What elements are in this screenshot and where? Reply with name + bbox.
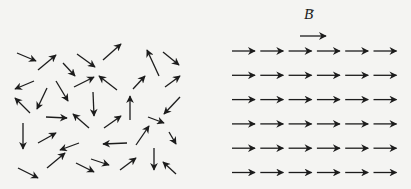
- vector-arrow-icon: →: [306, 4, 316, 14]
- dipole-arrow-icon: [163, 52, 179, 65]
- dipole-arrow-icon: [147, 50, 159, 76]
- dipole-arrow-icon: [17, 53, 36, 61]
- dipole-arrow-icon: [76, 163, 94, 172]
- dipole-arrow-icon: [77, 54, 95, 67]
- dipole-arrow-icon: [46, 117, 67, 118]
- magnetic-field-label: → B: [304, 7, 313, 22]
- dipole-arrow-icon: [104, 116, 121, 128]
- dipole-arrow-icon: [47, 153, 65, 168]
- aligned-dipoles-panel: [232, 51, 397, 173]
- dipole-arrow-icon: [169, 132, 176, 144]
- dipole-arrow-icon: [60, 143, 79, 150]
- dipole-arrow-icon: [165, 76, 180, 87]
- dipole-arrow-icon: [56, 81, 68, 101]
- dipole-arrow-icon: [133, 76, 145, 89]
- dipole-arrow-icon: [18, 168, 38, 178]
- dipole-arrow-icon: [38, 55, 56, 70]
- dipole-arrow-icon: [63, 63, 75, 76]
- dipole-arrow-icon: [103, 44, 121, 60]
- dipole-arrow-icon: [120, 158, 136, 170]
- dipole-arrow-icon: [163, 162, 176, 174]
- dipole-arrow-icon: [136, 126, 149, 145]
- dipole-arrow-icon: [74, 77, 94, 87]
- dipole-arrow-icon: [148, 117, 164, 123]
- dipole-arrow-icon: [15, 98, 30, 113]
- dipole-arrow-icon: [38, 133, 56, 143]
- dipole-arrow-icon: [91, 159, 109, 165]
- dipole-arrow-icon: [15, 81, 34, 89]
- dipole-arrow-icon: [103, 143, 127, 144]
- dipole-arrow-icon: [99, 76, 117, 90]
- random-dipoles-panel: [15, 44, 180, 178]
- dipole-arrow-icon: [164, 97, 180, 114]
- dipole-arrow-icon: [37, 88, 47, 109]
- dipole-arrow-icon: [73, 114, 89, 128]
- dipole-alignment-diagram: [0, 0, 411, 189]
- dipole-arrow-icon: [93, 92, 94, 116]
